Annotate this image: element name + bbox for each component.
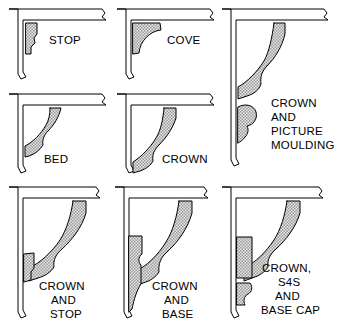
panel-crown-and-base: CROWN AND BASE: [110, 184, 220, 328]
molding-profile-picture-moulding: [238, 105, 256, 143]
panel-label-crown-s4s-line4: BASE CAP: [261, 304, 320, 316]
panel-label-crown-and-stop-line3: STOP: [50, 308, 82, 320]
panel-label-crown-and-base-line3: BASE: [162, 308, 194, 320]
panel-label-crown-s4s-line1: CROWN,: [262, 262, 311, 274]
molding-profile-crown: [29, 201, 86, 281]
panel-crown: CROWN: [114, 91, 220, 181]
panel-label-crown-and-picture-moulding-line3: PICTURE: [271, 125, 323, 137]
panel-bed: BED: [6, 91, 112, 181]
molding-applications-figure: STOP COVE CROWN AND PICTURE MOULDING BED…: [0, 0, 338, 330]
panel-label-bed: BED: [44, 153, 68, 165]
molding-profile-crown: [134, 201, 192, 286]
panel-label-crown-and-picture-moulding-line4: MOULDING: [271, 139, 335, 151]
panel-label-crown: CROWN: [162, 153, 208, 165]
panel-crown-and-picture-moulding: CROWN AND PICTURE MOULDING: [219, 6, 338, 178]
panel-cove: COVE: [114, 6, 220, 88]
panel-label-cove: COVE: [167, 34, 201, 46]
molding-profile-stop: [26, 23, 37, 54]
panel-label-crown-and-picture-moulding-line1: CROWN: [271, 97, 317, 109]
molding-profile-crown: [238, 23, 285, 99]
panel-label-stop: STOP: [49, 34, 81, 46]
panel-label-crown-s4s-line3: AND: [275, 290, 300, 302]
panel-stop: STOP: [6, 6, 112, 88]
panel-label-crown-and-base-line1: CROWN: [152, 280, 198, 292]
panel-label-crown-and-base-line2: AND: [164, 294, 189, 306]
panel-label-crown-and-stop-line2: AND: [51, 294, 76, 306]
panel-label-crown-and-picture-moulding-line2: AND: [271, 111, 296, 123]
molding-profile-base: [129, 236, 142, 312]
panel-label-crown-s4s-line2: S4S: [278, 276, 300, 288]
molding-profile-s4s: [237, 237, 252, 278]
panel-crown-s4s-and-base-cap: CROWN, S4S AND BASE CAP: [219, 184, 338, 328]
molding-profile-bed: [25, 108, 61, 157]
panel-label-crown-and-stop-line1: CROWN: [39, 280, 85, 292]
molding-profile-base-cap: [237, 283, 252, 305]
panel-crown-and-stop: CROWN AND STOP: [6, 184, 112, 328]
molding-profile-cove: [133, 23, 161, 54]
